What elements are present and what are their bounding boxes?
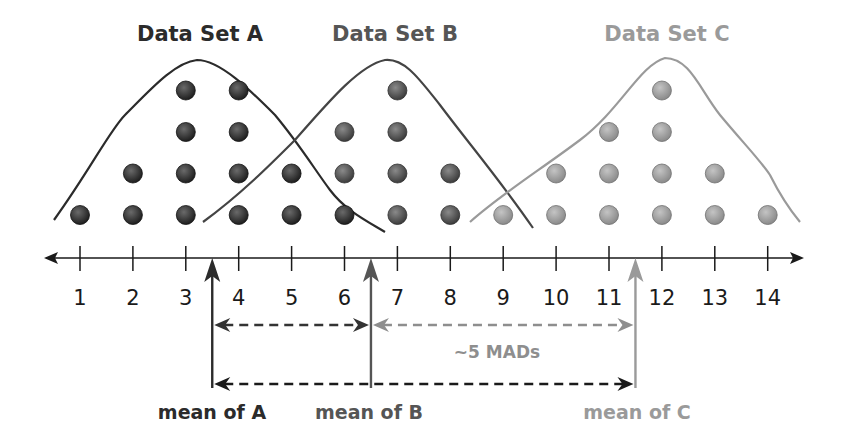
title-data-set-b: Data Set B: [332, 22, 458, 46]
dot-data-set-b: [388, 81, 407, 100]
dot-data-set-a: [123, 164, 142, 183]
dot-plot-chart: Data Set A Data Set B Data Set C 1234567…: [0, 0, 841, 440]
curve-data-set-c: [470, 58, 800, 222]
dot-data-set-c: [652, 206, 671, 225]
dot-data-set-a: [176, 81, 195, 100]
mean-a-label: mean of A: [158, 401, 267, 423]
title-data-set-c: Data Set C: [604, 22, 729, 46]
dot-data-set-c: [600, 123, 619, 142]
dot-data-set-a: [229, 81, 248, 100]
dot-data-set-a: [335, 206, 354, 225]
curve-data-set-b: [203, 60, 533, 228]
dot-data-set-c: [652, 164, 671, 183]
dot-data-set-b: [388, 123, 407, 142]
dot-data-set-c: [600, 164, 619, 183]
dot-data-set-a: [71, 206, 90, 225]
dot-data-set-c: [705, 206, 724, 225]
axis-tick-label: 13: [701, 286, 728, 310]
axis-tick-label: 8: [444, 286, 457, 310]
dot-data-set-c: [494, 206, 513, 225]
dot-data-set-a: [229, 123, 248, 142]
dot-markers: [71, 81, 778, 225]
mean-c-label: mean of C: [583, 401, 691, 423]
dot-data-set-c: [547, 164, 566, 183]
mad-label: ~5 MADs: [454, 342, 540, 362]
axis-tick-label: 11: [596, 286, 623, 310]
axis-tick-label: 14: [754, 286, 781, 310]
axis-tick-label: 6: [338, 286, 351, 310]
dot-data-set-a: [176, 206, 195, 225]
chart-canvas: Data Set A Data Set B Data Set C 1234567…: [0, 0, 841, 440]
axis-tick-label: 9: [497, 286, 510, 310]
curve-data-set-a: [54, 60, 385, 232]
dot-data-set-c: [600, 206, 619, 225]
dot-data-set-c: [652, 81, 671, 100]
dot-data-set-c: [705, 164, 724, 183]
axis-tick-label: 2: [126, 286, 139, 310]
dot-data-set-b: [388, 164, 407, 183]
span-right-arrow-icon: [617, 318, 633, 332]
axis-tick-label: 1: [73, 286, 86, 310]
dot-data-set-a: [229, 164, 248, 183]
dot-data-set-a: [123, 206, 142, 225]
mean-markers: [204, 258, 643, 391]
dot-data-set-a: [282, 164, 301, 183]
dot-data-set-a: [229, 206, 248, 225]
axis-tick-label: 5: [285, 286, 298, 310]
dot-data-set-b: [335, 164, 354, 183]
title-data-set-a: Data Set A: [137, 22, 264, 46]
dot-data-set-b: [441, 206, 460, 225]
axis-tick-label: 12: [649, 286, 676, 310]
dot-data-set-c: [652, 123, 671, 142]
axis-tick-label: 10: [543, 286, 570, 310]
dot-data-set-b: [441, 164, 460, 183]
dot-data-set-b: [335, 123, 354, 142]
dot-data-set-a: [282, 206, 301, 225]
axis-tick-label: 4: [232, 286, 245, 310]
dot-data-set-a: [176, 123, 195, 142]
span-right-arrow-icon: [353, 318, 369, 332]
axis-ticks: 1234567891011121314: [73, 246, 781, 310]
axis-tick-label: 7: [391, 286, 404, 310]
dot-data-set-a: [176, 164, 195, 183]
axis-tick-label: 3: [179, 286, 192, 310]
dot-data-set-c: [547, 206, 566, 225]
dot-data-set-c: [758, 206, 777, 225]
dot-data-set-b: [388, 206, 407, 225]
mean-b-label: mean of B: [315, 401, 423, 423]
